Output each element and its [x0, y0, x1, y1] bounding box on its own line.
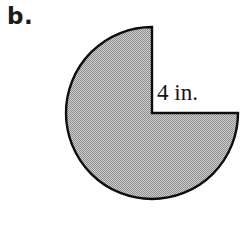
- part-label: b.: [7, 5, 33, 28]
- radius-measurement-label: 4 in.: [157, 81, 198, 104]
- shaded-circle-region: [66, 27, 238, 199]
- circle-sector-diagram: [0, 0, 246, 245]
- geometry-figure-container: b. 4 in.: [0, 0, 246, 245]
